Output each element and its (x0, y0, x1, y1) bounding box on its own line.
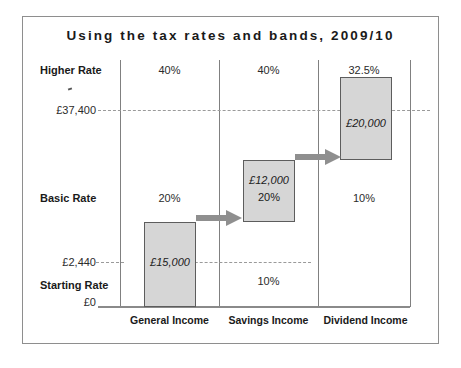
rate-savings-higher: 40% (219, 64, 318, 76)
threshold-line-2440-right (180, 262, 311, 263)
rate-general-basic: 20% (120, 192, 219, 204)
category-label-general-income: General Income (118, 314, 221, 326)
rate-savings-starting: 10% (219, 275, 318, 287)
band-label-higher-rate: Higher Rate (40, 64, 102, 76)
bar-general-income-amount: £15,000 (145, 256, 195, 268)
rate-general-higher: 40% (120, 64, 219, 76)
bar-dividend-income: £20,000 (340, 77, 392, 160)
axis-value-2440: £2,440 (24, 256, 96, 268)
bar-savings-income-amount: £12,000 (244, 174, 294, 186)
column-divider-1 (219, 60, 220, 307)
rate-dividend-higher: 32.5% (318, 64, 410, 76)
axis-value-0: £0 (24, 296, 96, 308)
band-label-starting-rate: Starting Rate (40, 279, 108, 291)
tax-bands-chart: Using the tax rates and bands, 2009/10 H… (0, 0, 461, 368)
column-divider-left (120, 60, 121, 307)
band-label-basic-rate: Basic Rate (40, 192, 96, 204)
column-divider-right (410, 60, 411, 307)
arrow-savings-to-dividend-icon (295, 148, 345, 166)
bar-dividend-income-amount: £20,000 (341, 117, 391, 129)
category-label-savings-income: Savings Income (218, 314, 319, 326)
column-divider-2 (318, 60, 319, 307)
arrow-general-to-savings-icon (196, 209, 246, 227)
category-label-dividend-income: Dividend Income (315, 314, 416, 326)
axis-value-37400: £37,400 (24, 104, 96, 116)
bar-savings-income: £12,000 20% (243, 160, 295, 222)
bar-savings-income-rate: 20% (244, 191, 294, 203)
bar-general-income: £15,000 (144, 222, 196, 307)
chart-title: Using the tax rates and bands, 2009/10 (22, 28, 439, 43)
rate-dividend-basic: 10% (318, 192, 410, 204)
threshold-line-2440-left (96, 262, 124, 263)
